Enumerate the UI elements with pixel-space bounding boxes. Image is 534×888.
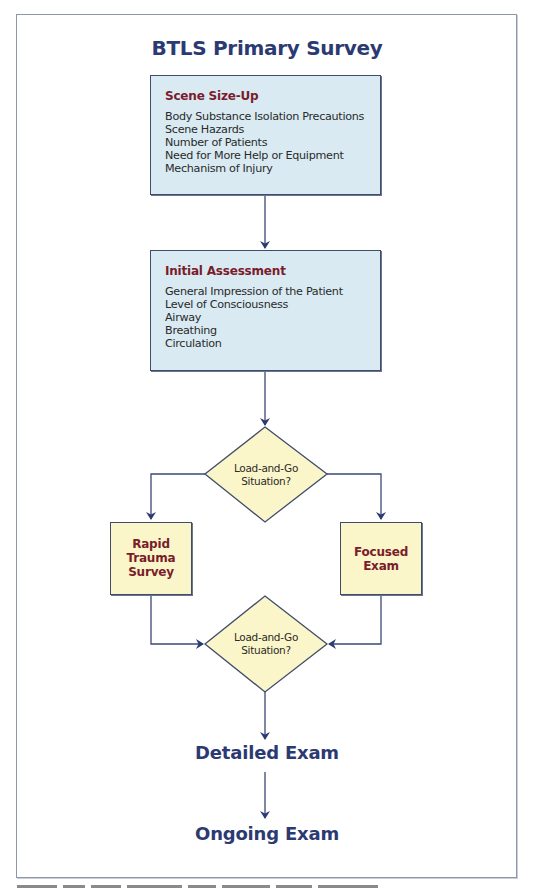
decision-2-label: Load-and-Go Situation?	[205, 631, 327, 657]
list-item: Mechanism of Injury	[165, 162, 364, 175]
rapid-trauma-survey-label: Rapid Trauma Survey	[111, 537, 191, 579]
rapid-line-3: Survey	[111, 565, 191, 579]
detailed-exam-label: Detailed Exam	[0, 742, 534, 763]
list-item: Level of Consciousness	[165, 298, 343, 311]
initial-assessment-heading: Initial Assessment	[165, 264, 286, 278]
list-item: Body Substance Isolation Precautions	[165, 110, 364, 123]
ongoing-exam-label: Ongoing Exam	[0, 823, 534, 844]
scene-size-up-box: Scene Size-Up Body Substance Isolation P…	[150, 75, 381, 195]
diagram-title: BTLS Primary Survey	[0, 36, 534, 60]
list-item: Circulation	[165, 337, 343, 350]
scene-size-up-heading: Scene Size-Up	[165, 89, 258, 103]
focused-line-2: Exam	[341, 559, 421, 573]
decision-1-label: Load-and-Go Situation?	[205, 462, 327, 488]
focused-line-1: Focused	[341, 545, 421, 559]
decision-2-line-2: Situation?	[205, 644, 327, 657]
decision-2-line-1: Load-and-Go	[205, 631, 327, 644]
initial-assessment-box: Initial Assessment General Impression of…	[150, 250, 381, 371]
rapid-trauma-survey-box: Rapid Trauma Survey	[110, 522, 192, 595]
list-item: Number of Patients	[165, 136, 364, 149]
scene-size-up-list: Body Substance Isolation Precautions Sce…	[165, 110, 364, 175]
list-item: Breathing	[165, 324, 343, 337]
list-item: Need for More Help or Equipment	[165, 149, 364, 162]
focused-exam-box: Focused Exam	[340, 522, 422, 595]
focused-exam-label: Focused Exam	[341, 545, 421, 573]
rapid-line-2: Trauma	[111, 551, 191, 565]
decision-1-line-1: Load-and-Go	[205, 462, 327, 475]
list-item: Airway	[165, 311, 343, 324]
rapid-line-1: Rapid	[111, 537, 191, 551]
initial-assessment-list: General Impression of the Patient Level …	[165, 285, 343, 350]
decision-1-line-2: Situation?	[205, 475, 327, 488]
list-item: Scene Hazards	[165, 123, 364, 136]
list-item: General Impression of the Patient	[165, 285, 343, 298]
